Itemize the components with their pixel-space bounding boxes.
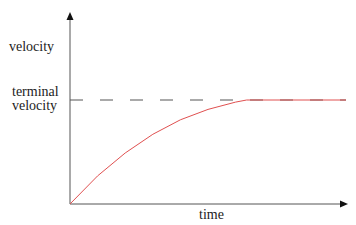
x-axis-label: time: [199, 207, 224, 222]
y-axis-arrow-icon: [67, 12, 74, 20]
y-axis-label: velocity: [9, 39, 54, 54]
x-axis-arrow-icon: [340, 201, 348, 208]
terminal-velocity-label-line2: velocity: [12, 98, 57, 113]
terminal-velocity-label-line1: terminal: [12, 84, 59, 99]
y-axis: [67, 12, 74, 204]
velocity-curve: [70, 100, 346, 204]
